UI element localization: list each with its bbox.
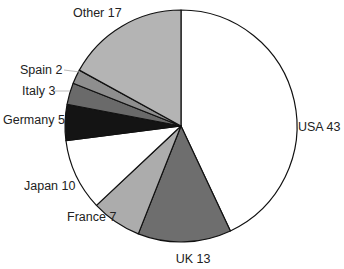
label-italy: Italy 3 — [22, 84, 55, 98]
leader-line-spain — [64, 70, 80, 72]
label-usa: USA 43 — [298, 120, 340, 134]
label-other: Other 17 — [73, 6, 122, 20]
pie-chart: USA 43UK 13France 7Japan 10Germany 5Ital… — [0, 0, 344, 269]
label-germany: Germany 5 — [3, 113, 65, 127]
pie-slices — [65, 10, 297, 242]
label-france: France 7 — [67, 210, 116, 224]
label-japan: Japan 10 — [24, 179, 75, 193]
label-spain: Spain 2 — [20, 63, 62, 77]
label-uk: UK 13 — [176, 252, 211, 266]
